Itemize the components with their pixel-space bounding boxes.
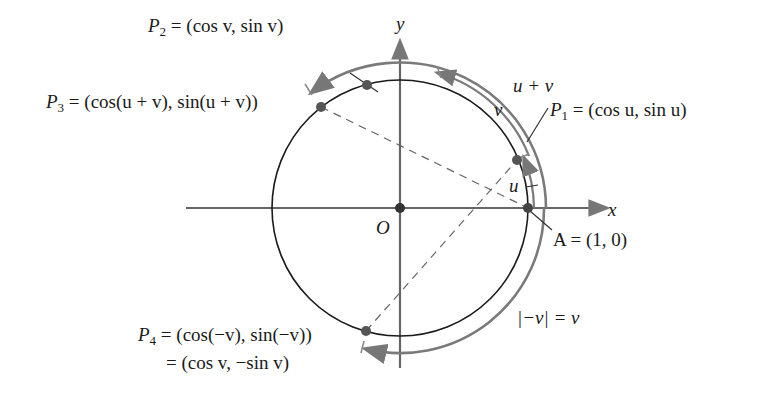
point-origin (395, 203, 405, 213)
chord-p4-p1 (366, 159, 518, 331)
leader-a (530, 211, 552, 230)
point-p2 (362, 80, 372, 90)
point-p1 (512, 155, 522, 165)
point-a (523, 203, 533, 213)
arc-label-neg-v: |−v| = v (517, 308, 579, 327)
point-p4 (361, 326, 371, 336)
arc-label-v: v (494, 100, 502, 119)
arc-label-u: u (509, 176, 519, 195)
diagram-svg (0, 0, 757, 400)
label-p1: P1 = (cos u, sin u) (550, 100, 686, 122)
x-axis-label: x (608, 200, 616, 219)
arc-label-u-plus-v: u + v (513, 76, 553, 95)
unit-circle-diagram: y x O P2 = (cos v, sin v) P3 = (cos(u + … (0, 0, 757, 400)
leader-p1 (527, 108, 548, 142)
label-p3: P3 = (cos(u + v), sin(u + v)) (46, 92, 258, 114)
label-p2: P2 = (cos v, sin v) (148, 16, 283, 38)
point-p3 (316, 102, 326, 112)
arc-neg-v (366, 208, 544, 353)
y-axis-label: y (396, 14, 404, 33)
label-p4-simplified: = (cos v, −sin v) (166, 353, 289, 372)
origin-label: O (376, 218, 390, 237)
chord-p3-a (321, 107, 528, 208)
label-p4: P4 = (cos(−v), sin(−v)) (138, 325, 312, 347)
label-a: A = (1, 0) (553, 230, 627, 249)
